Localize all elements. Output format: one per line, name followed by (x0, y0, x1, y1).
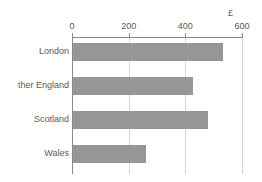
x-axis-line (72, 37, 242, 38)
tick-mark (242, 33, 243, 38)
bar (73, 77, 193, 95)
bar (73, 145, 146, 163)
x-tick-label-0: 0 (69, 21, 74, 31)
bar-row: Scotland (73, 111, 243, 129)
category-label: Wales (3, 148, 69, 159)
tick-mark (72, 33, 73, 38)
bar (73, 111, 208, 129)
category-label: London (3, 46, 69, 57)
category-label-wrap: Wales (3, 148, 69, 159)
bar-row: London (73, 43, 243, 61)
plot-area: Londonther EnglandScotlandWales (72, 38, 242, 174)
category-label-wrap: London (3, 46, 69, 57)
category-label-wrap: Scotland (3, 114, 69, 125)
bar (73, 43, 223, 61)
category-label-wrap: ther England (3, 80, 69, 91)
tick-mark (185, 33, 186, 38)
category-label: Scotland (3, 114, 69, 125)
bar-row: Wales (73, 145, 243, 163)
x-tick-label-1: 200 (121, 21, 136, 31)
bar-row: ther England (73, 77, 243, 95)
x-tick-label-3: 600 (234, 21, 249, 31)
tick-mark (129, 33, 130, 38)
x-tick-label-2: 400 (178, 21, 193, 31)
bar-chart: £ 0 200 400 600 Londonther EnglandScotla… (0, 0, 262, 182)
unit-label: £ (228, 8, 233, 18)
category-label: ther England (3, 80, 69, 91)
